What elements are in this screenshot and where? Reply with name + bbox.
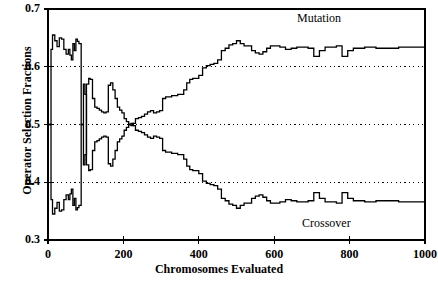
series-annotation-mutation: Mutation (297, 11, 341, 26)
x-tick-label: 200 (93, 247, 153, 262)
series-line-mutation (48, 35, 425, 165)
x-tick-label: 1000 (395, 247, 438, 262)
x-axis-title: Chromosomes Evaluated (0, 262, 438, 277)
y-tick-label: 0.7 (6, 1, 40, 16)
y-axis-title: Operator Selection Fractions (20, 46, 35, 196)
series-line-crossover (48, 84, 425, 214)
y-tick-label: 0.3 (6, 232, 40, 247)
data-series (48, 35, 425, 214)
x-tick-label: 800 (320, 247, 380, 262)
chart-plot-area (0, 0, 438, 282)
chart-figure: 0.30.40.50.60.7 02004006008001000 Operat… (0, 0, 438, 282)
x-tick-label: 0 (18, 247, 78, 262)
series-annotation-crossover: Crossover (302, 216, 351, 231)
x-tick-label: 400 (169, 247, 229, 262)
gridlines (48, 67, 425, 183)
x-tick-label: 600 (244, 247, 304, 262)
